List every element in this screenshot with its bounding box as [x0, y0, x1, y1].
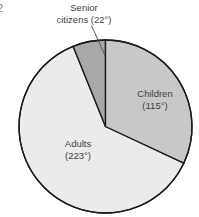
slice-label-children-line2: (115°)	[126, 100, 184, 112]
slice-label-adults-line2: (223°)	[48, 150, 108, 162]
slice-label-senior-citizens: Senior citizens (22°)	[44, 2, 124, 25]
slice-label-children: Children (115°)	[126, 88, 184, 111]
slice-label-children-line1: Children	[137, 88, 172, 99]
slice-label-adults: Adults (223°)	[48, 138, 108, 161]
pie-chart-figure: 2 Senior citizens (22°) Children (115°) …	[0, 0, 199, 217]
slice-label-senior-citizens-line2: citizens (22°)	[44, 14, 124, 26]
slice-label-adults-line1: Adults	[65, 138, 91, 149]
slice-label-senior-citizens-line1: Senior	[70, 2, 97, 13]
